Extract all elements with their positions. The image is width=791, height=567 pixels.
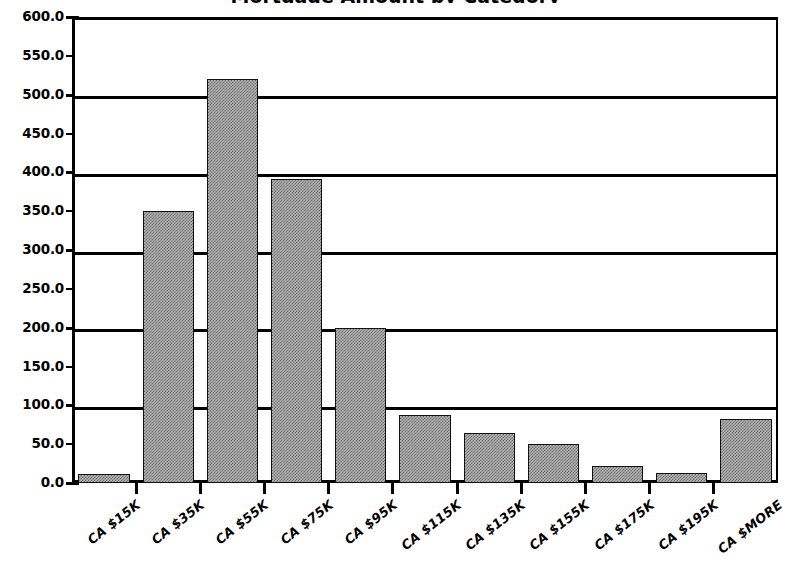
x-axis-tick-label: CA $MORE: [715, 497, 785, 557]
y-axis-tick-label: 500.0: [2, 86, 64, 102]
x-axis-tick-mark: [456, 483, 459, 494]
x-axis-tick-mark: [327, 483, 330, 494]
bar: [464, 433, 515, 483]
bar: [720, 419, 771, 483]
bar: [656, 473, 707, 483]
x-axis-tick-mark: [648, 483, 651, 494]
bar: [207, 79, 258, 483]
bar-chart: Mortgage Amount by Category 600.0550.050…: [0, 0, 791, 567]
x-axis-tick-mark: [584, 483, 587, 494]
x-axis: CA $15KCA $35KCA $55KCA $75KCA $95KCA $1…: [0, 483, 791, 567]
x-axis-tick-label: CA $195K: [655, 497, 721, 553]
x-axis-tick-label: CA $115K: [398, 497, 464, 553]
x-axis-tick-label: CA $95K: [341, 497, 400, 547]
bar: [143, 211, 194, 483]
y-axis-tick-label: 300.0: [2, 241, 64, 257]
y-axis-tick-label: 100.0: [2, 396, 64, 412]
bar: [399, 415, 450, 483]
y-axis-tick-label: 400.0: [2, 163, 64, 179]
x-axis-tick-label: CA $15K: [85, 497, 144, 547]
y-axis-tick-label: 200.0: [2, 319, 64, 335]
bar: [78, 474, 129, 483]
x-axis-tick-mark: [135, 483, 138, 494]
x-axis-tick-mark: [199, 483, 202, 494]
y-axis-tick-label: 350.0: [2, 202, 64, 218]
x-axis-tick-mark: [520, 483, 523, 494]
y-axis-tick-label: 550.0: [2, 47, 64, 63]
x-axis-tick-label: CA $55K: [213, 497, 272, 547]
bar: [592, 466, 643, 483]
bar: [335, 328, 386, 483]
x-axis-tick-mark: [391, 483, 394, 494]
x-axis-tick-label: CA $175K: [591, 497, 657, 553]
y-axis-tick-label: 150.0: [2, 358, 64, 374]
y-axis-tick-label: 600.0: [2, 8, 64, 24]
y-axis-tick-label: 250.0: [2, 280, 64, 296]
x-axis-tick-mark: [712, 483, 715, 494]
x-axis-tick-label: CA $155K: [527, 497, 593, 553]
x-axis-tick-label: CA $35K: [149, 497, 208, 547]
y-axis-tick-label: 50.0: [2, 435, 64, 451]
x-axis-tick-label: CA $75K: [277, 497, 336, 547]
y-axis-tick-label: 450.0: [2, 125, 64, 141]
bar: [528, 444, 579, 483]
x-axis-tick-label: CA $135K: [462, 497, 528, 553]
x-axis-tick-mark: [263, 483, 266, 494]
bar: [271, 179, 322, 483]
bar-series: [72, 17, 778, 483]
